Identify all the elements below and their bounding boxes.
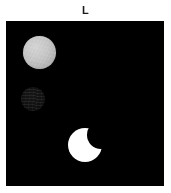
object-dark-disk bbox=[21, 87, 45, 111]
figure-container: L bbox=[0, 0, 171, 193]
panel-title: L bbox=[0, 4, 171, 17]
object-white-disk bbox=[68, 128, 102, 162]
object-gray-disk bbox=[23, 36, 56, 69]
image-panel bbox=[6, 21, 164, 186]
